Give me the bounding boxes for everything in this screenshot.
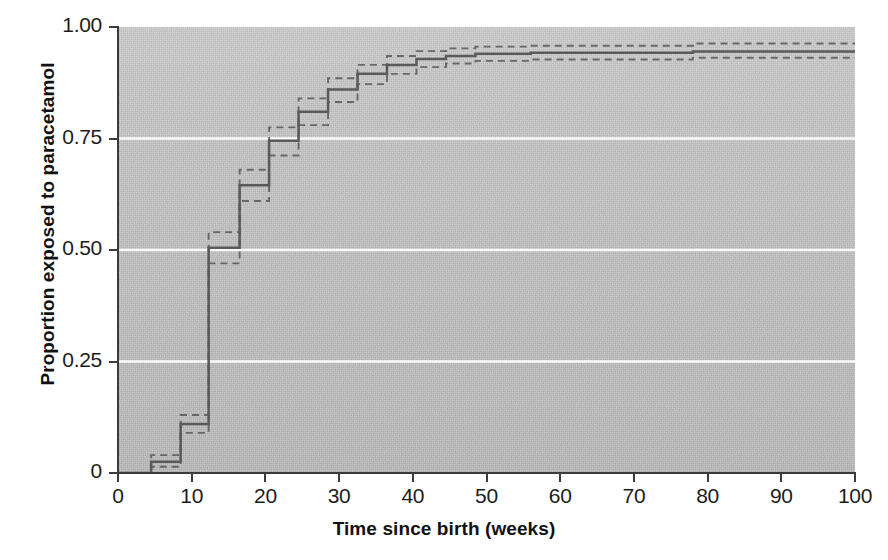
x-tick-mark [559,473,561,482]
x-tick-label: 80 [696,484,719,508]
y-axis-title: Proportion exposed to paracetamol [37,9,59,439]
x-tick-label: 30 [328,484,351,508]
x-tick-label: 10 [180,484,203,508]
x-tick-mark [486,473,488,482]
x-axis-title: Time since birth (weeks) [0,518,888,540]
x-tick-label: 40 [401,484,424,508]
x-tick-label: 20 [254,484,277,508]
x-tick-mark [707,473,709,482]
x-tick-label: 50 [475,484,498,508]
x-tick-label: 90 [770,484,793,508]
y-tick-mark [109,249,118,251]
y-tick-mark [109,26,118,28]
x-tick-label: 70 [623,484,646,508]
x-tick-mark [117,473,119,482]
x-tick-label: 60 [549,484,572,508]
x-tick-mark [854,473,856,482]
step-curves [118,27,855,473]
x-tick-label: 0 [112,484,123,508]
x-tick-mark [264,473,266,482]
y-tick-mark [109,361,118,363]
x-tick-mark [191,473,193,482]
chart-figure: 00.250.500.751.00 0102030405060708090100… [0,0,888,560]
x-tick-mark [780,473,782,482]
x-tick-mark [633,473,635,482]
x-tick-mark [338,473,340,482]
y-tick-label: 0 [44,459,102,483]
x-tick-mark [412,473,414,482]
plot-area [118,27,855,473]
y-tick-mark [109,138,118,140]
x-tick-label: 100 [838,484,872,508]
